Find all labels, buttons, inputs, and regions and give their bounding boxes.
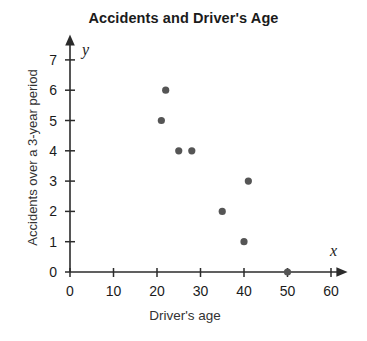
y-tick-label: 4 (49, 143, 57, 159)
y-tick-label: 1 (49, 234, 57, 250)
data-points (158, 87, 291, 276)
data-point (219, 208, 226, 215)
y-tick-label: 0 (49, 264, 57, 280)
y-tick-label: 3 (49, 173, 57, 189)
x-axis-variable-label: x (329, 242, 337, 259)
x-tick-label: 60 (323, 283, 339, 299)
y-tick-label: 7 (49, 52, 57, 68)
x-tick-label: 50 (280, 283, 296, 299)
y-axis-variable-label: y (80, 41, 90, 59)
plot-area: 0102030405060 01234567 x y (0, 0, 367, 341)
y-tick-label: 5 (49, 113, 57, 129)
y-tick-label: 2 (49, 203, 57, 219)
y-axis-ticks: 01234567 (49, 52, 75, 280)
data-point (175, 147, 182, 154)
x-tick-label: 20 (149, 283, 165, 299)
scatter-plot-figure: Accidents and Driver's Age Accidents ove… (0, 0, 367, 341)
data-point (162, 87, 169, 94)
x-tick-label: 40 (236, 283, 252, 299)
data-point (188, 147, 195, 154)
data-point (245, 178, 252, 185)
data-point (240, 238, 247, 245)
axes (70, 44, 338, 272)
x-tick-label: 30 (193, 283, 209, 299)
x-tick-label: 0 (66, 283, 74, 299)
y-tick-label: 6 (49, 82, 57, 98)
data-point (158, 117, 165, 124)
data-point (284, 268, 291, 275)
x-tick-label: 10 (106, 283, 122, 299)
